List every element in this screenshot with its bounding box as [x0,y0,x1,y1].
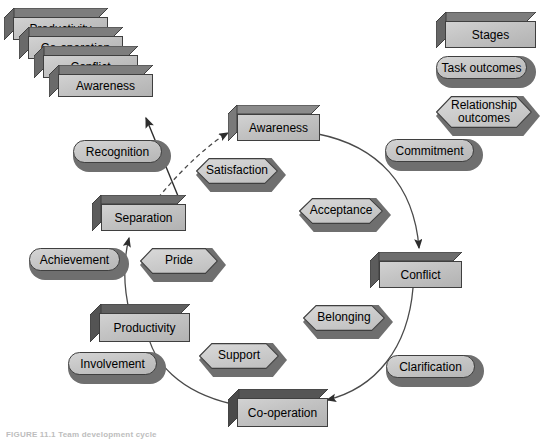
pill-face: Involvement [68,352,157,375]
stage-label: Awareness [249,121,308,135]
legend-label-task-outcomes: Task outcomes [441,61,521,75]
legend-item-stages: Stages [436,12,536,48]
task-outcome-label: Clarification [399,360,462,374]
legend-label-rel-line2: outcomes [458,111,510,125]
pill-face: Task outcomes [436,56,527,79]
relationship-outcome-label: Pride [165,254,193,267]
pill-face: Commitment [385,139,474,162]
relationship-outcome-pride: Pride [140,248,226,282]
task-outcome-label: Recognition [86,145,149,159]
stage-cooperation: Co-operation [228,389,328,427]
hex-face: Acceptance [299,198,383,224]
stage-productivity: Productivity [90,304,190,342]
task-outcome-recognition: Recognition [73,140,171,172]
stage-separation: Separation [92,195,186,231]
task-outcome-label: Achievement [40,253,109,267]
legend-label-rel-line1: Relationship [451,98,517,112]
hex-face: Support [199,343,279,369]
legend-label-stages: Stages [472,28,509,42]
relationship-outcome-belonging: Belonging [303,305,393,339]
stage-label: Conflict [400,268,440,282]
stage-label: Separation [114,211,172,225]
legend-item-relationship-outcomes: Relationship outcomes [436,96,540,136]
relationship-outcome-label: Satisfaction [206,164,268,177]
relationship-outcome-acceptance: Acceptance [299,198,391,232]
stack-layer-label: Awareness [76,79,135,93]
pill-face: Achievement [29,248,120,271]
task-outcome-involvement: Involvement [68,352,166,384]
figure-canvas: Productivity Co-operation Conflict [0,0,541,439]
relationship-outcome-satisfaction: Satisfaction [196,158,286,192]
hex-face: Satisfaction [196,158,278,184]
relationship-outcome-label: Support [218,349,260,362]
task-outcome-achievement: Achievement [29,248,129,280]
stage-label: Productivity [113,321,175,335]
stage-conflict: Conflict [370,252,462,288]
task-outcome-clarification: Clarification [386,355,484,387]
relationship-outcome-label: Belonging [317,311,370,324]
task-outcome-label: Involvement [80,357,145,371]
stage-label: Co-operation [248,406,317,420]
repeating-cycle-stack: Productivity Co-operation Conflict [4,8,164,118]
stack-layer-awareness: Awareness [49,65,153,97]
task-outcome-commitment: Commitment [385,139,483,171]
task-outcome-label: Commitment [395,144,463,158]
relationship-outcome-label: Acceptance [310,204,373,217]
legend-label-relationship-outcomes: Relationship outcomes [451,99,517,125]
legend-item-task-outcomes: Task outcomes [436,56,536,88]
hex-face: Relationship outcomes [436,96,532,128]
relationship-outcome-support: Support [199,343,287,377]
hex-face: Pride [140,248,218,274]
pill-face: Clarification [386,355,475,378]
figure-caption: FIGURE 11.1 Team development cycle [6,430,157,439]
legend: Stages Task outcomes Relationship outcom… [436,12,540,140]
hex-face: Belonging [303,305,385,331]
stage-awareness: Awareness [228,105,320,141]
pill-face: Recognition [73,140,162,163]
